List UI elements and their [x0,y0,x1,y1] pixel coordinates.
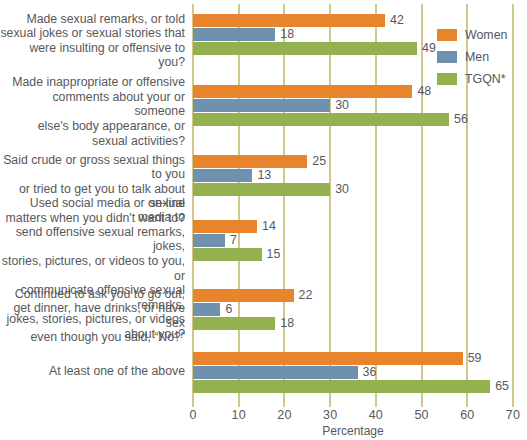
bar-women-1 [193,85,412,98]
x-tick-mark-60 [466,396,468,407]
bar-value-men-4: 6 [225,303,232,316]
x-tick-label-20: 20 [264,408,304,422]
bar-value-tgqn-5: 65 [495,380,509,393]
bar-men-5 [193,366,358,379]
x-tick-label-70: 70 [493,408,527,422]
bar-men-2 [193,169,252,182]
legend-swatch-women-icon [437,29,457,41]
bar-value-men-0: 18 [280,28,294,41]
bar-women-2 [193,155,307,168]
legend: Women Men TGQN* [437,24,527,90]
bar-women-4 [193,289,294,302]
bar-tgqn-3 [193,248,262,261]
category-label-line: send offensive sexual remarks, jokes, [0,225,185,254]
x-tick-mark-10 [238,396,240,407]
category-label-line: else's body appearance, or [0,119,185,134]
bar-value-women-1: 48 [417,85,431,98]
bar-tgqn-4 [193,317,275,330]
legend-label-women: Women [465,28,507,42]
category-label-4: Continued to ask you to go out,get dinne… [0,287,185,345]
gridline-40 [375,4,377,396]
bar-tgqn-1 [193,113,449,126]
bar-tgqn-0 [193,42,417,55]
category-label-line: Continued to ask you to go out, [0,287,185,302]
bar-men-4 [193,303,220,316]
grouped-bar-chart: Made sexual remarks, or toldsexual jokes… [0,0,527,440]
x-tick-label-0: 0 [173,408,213,422]
legend-swatch-tgqn-icon [437,73,457,85]
bar-men-0 [193,28,275,41]
x-axis-title: Percentage [193,424,513,438]
legend-item-tgqn: TGQN* [437,68,527,90]
bar-value-tgqn-0: 49 [422,42,436,55]
bar-value-tgqn-2: 30 [335,183,349,196]
legend-swatch-men-icon [437,51,457,63]
bar-value-women-2: 25 [312,155,326,168]
category-label-line: At least one of the above [0,364,185,379]
gridline-0 [192,4,194,396]
bar-women-0 [193,14,385,27]
x-tick-mark-20 [283,396,285,407]
bar-value-tgqn-3: 15 [267,248,281,261]
bar-men-1 [193,99,330,112]
x-tick-label-10: 10 [219,408,259,422]
category-label-line: Used social media or on-line media to [0,196,185,225]
bar-men-3 [193,234,225,247]
category-label-line: were insulting or offensive to you? [0,41,185,70]
bar-value-women-4: 22 [299,289,313,302]
legend-item-women: Women [437,24,527,46]
category-label-line: comments about your or someone [0,90,185,119]
category-label-line: sexual activities? [0,134,185,149]
category-label-0: Made sexual remarks, or toldsexual jokes… [0,12,185,70]
bar-tgqn-2 [193,183,330,196]
x-tick-label-30: 30 [310,408,350,422]
category-label-line: sexual jokes or sexual stories that [0,26,185,41]
gridline-50 [421,4,423,396]
bar-value-men-2: 13 [257,169,271,182]
legend-label-tgqn: TGQN* [465,72,506,86]
x-tick-label-40: 40 [356,408,396,422]
category-label-5: At least one of the above [0,364,185,379]
bar-value-women-5: 59 [468,352,482,365]
category-label-1: Made inappropriate or offensivecomments … [0,75,185,148]
category-label-line: even though you said, “No?” [0,330,185,345]
gridline-10 [238,4,240,396]
x-tick-label-50: 50 [402,408,442,422]
x-tick-mark-50 [421,396,423,407]
category-label-line: get dinner, have drinks, or have sex [0,301,185,330]
legend-item-men: Men [437,46,527,68]
bar-value-tgqn-1: 56 [454,113,468,126]
gridline-20 [283,4,285,396]
bar-tgqn-5 [193,380,490,393]
bar-women-5 [193,352,463,365]
gridline-30 [329,4,331,396]
legend-label-men: Men [465,50,489,64]
category-label-line: Made sexual remarks, or told [0,12,185,27]
bar-value-women-3: 14 [262,220,276,233]
category-label-line: Made inappropriate or offensive [0,75,185,90]
x-tick-label-60: 60 [447,408,487,422]
x-tick-mark-70 [512,396,514,407]
bar-value-women-0: 42 [390,14,404,27]
x-tick-mark-0 [192,396,194,407]
bar-value-men-5: 36 [363,366,377,379]
category-label-line: stories, pictures, or videos to you, or [0,254,185,283]
bar-value-tgqn-4: 18 [280,317,294,330]
x-tick-mark-30 [329,396,331,407]
bar-women-3 [193,220,257,233]
bar-value-men-1: 30 [335,99,349,112]
category-labels: Made sexual remarks, or toldsexual jokes… [0,0,189,440]
bar-value-men-3: 7 [230,234,237,247]
category-label-line: Said crude or gross sexual things to you [0,153,185,182]
x-tick-mark-40 [375,396,377,407]
